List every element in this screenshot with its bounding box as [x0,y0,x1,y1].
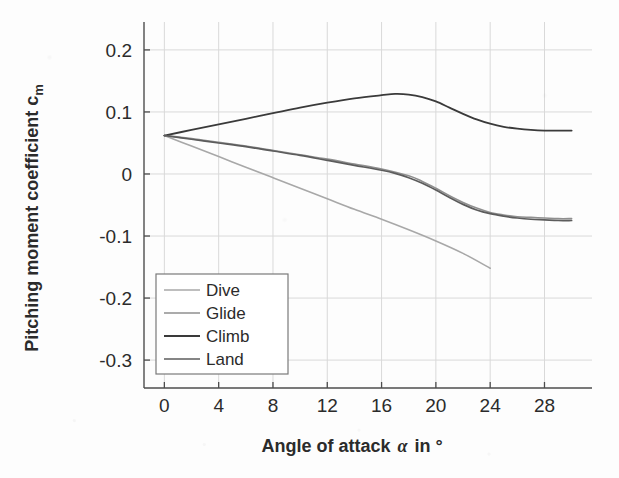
chart-legend[interactable]: DiveGlideClimbLand [156,274,288,374]
pitching-moment-chart: 0481216202428 0.20.10-0.1-0.2-0.3 Angle … [0,0,619,478]
svg-text:Pitching moment coefficient cm: Pitching moment coefficient cm [22,84,46,352]
x-tick-label: 16 [371,395,392,416]
x-tick-label: 20 [425,395,446,416]
x-tick-label: 4 [213,395,224,416]
y-tick-label: -0.2 [99,288,132,309]
series-line-land [164,136,571,221]
x-tick-label: 8 [268,395,279,416]
y-tick-label: 0.2 [106,40,132,61]
y-tick-labels: 0.20.10-0.1-0.2-0.3 [99,40,132,371]
y-axis-title: Pitching moment coefficient cm [22,84,46,352]
x-tick-label: 12 [317,395,338,416]
x-tick-label: 0 [159,395,170,416]
x-tick-labels: 0481216202428 [159,395,555,416]
legend-label: Land [206,350,244,369]
x-axis-title: Angle of attackαin ° [261,436,442,456]
x-tick-label: 24 [480,395,502,416]
legend-label: Dive [206,281,240,300]
svg-text:Angle of attackαin °: Angle of attackαin ° [261,436,442,456]
legend-label: Glide [206,304,246,323]
series-line-climb [164,94,571,136]
data-series-group [164,94,571,268]
y-tick-label: -0.1 [99,226,132,247]
y-tick-label: 0.1 [106,102,132,123]
y-tick-label: -0.3 [99,350,132,371]
chart-figure: 0481216202428 0.20.10-0.1-0.2-0.3 Angle … [0,0,619,478]
x-tick-label: 28 [534,395,555,416]
series-line-glide [164,136,571,219]
y-tick-label: 0 [121,164,132,185]
legend-label: Climb [206,327,249,346]
